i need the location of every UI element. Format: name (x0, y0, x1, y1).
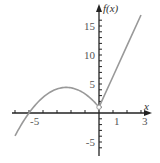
x-tick-label: 1 (114, 115, 120, 127)
open-point-marker (97, 105, 101, 109)
y-tick-label: -5 (86, 136, 96, 148)
x-tick-label: -5 (30, 115, 40, 127)
y-tick-label: 15 (84, 20, 96, 32)
y-tick-label: 5 (90, 78, 96, 90)
y-axis-arrow-icon (96, 4, 102, 12)
function-graph: x f(x) -513 15105-5 (0, 0, 160, 163)
y-tick-label: 10 (84, 49, 96, 61)
linear-curve (99, 15, 141, 107)
y-axis-label: f(x) (103, 2, 119, 15)
y-tick-labels: 15105-5 (84, 20, 96, 148)
x-tick-label: 3 (142, 115, 148, 127)
x-axis-label: x (143, 100, 149, 112)
x-tick-labels: -513 (30, 115, 148, 127)
